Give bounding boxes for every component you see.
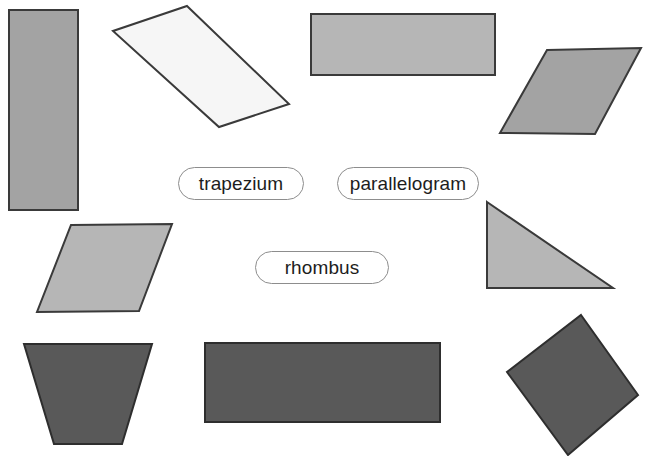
- shape-left-parallelogram[interactable]: [37, 224, 172, 312]
- label-pill-rhombus[interactable]: rhombus: [255, 251, 389, 284]
- shape-trapezoid[interactable]: [24, 344, 152, 444]
- label-pill-parallelogram[interactable]: parallelogram: [337, 167, 479, 200]
- label-text-trapezium: trapezium: [199, 174, 283, 193]
- shape-top-rectangle[interactable]: [311, 14, 495, 75]
- shape-top-right-parallelogram[interactable]: [500, 48, 641, 134]
- label-pill-trapezium[interactable]: trapezium: [178, 167, 304, 200]
- shape-activity-canvas: trapezium parallelogram rhombus: [0, 0, 650, 456]
- label-text-parallelogram: parallelogram: [350, 174, 466, 193]
- shape-layer: [0, 0, 650, 456]
- shape-white-parallelogram[interactable]: [113, 6, 289, 127]
- shape-tall-rectangle[interactable]: [9, 10, 78, 210]
- label-text-rhombus: rhombus: [285, 258, 360, 277]
- shape-right-triangle[interactable]: [487, 202, 613, 288]
- shape-bottom-rectangle[interactable]: [205, 343, 440, 422]
- shape-rotated-square[interactable]: [507, 315, 638, 455]
